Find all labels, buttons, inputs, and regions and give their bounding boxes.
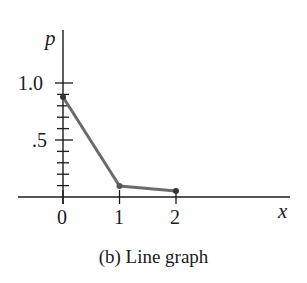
data-point-2 [173,188,179,194]
data-point-1 [117,183,123,189]
data-point-0 [60,94,66,100]
chart-canvas: p x 1.0 .5 0 1 2 [0,0,307,283]
data-line [63,97,176,191]
figure-caption: (b) Line graph [0,246,307,268]
y-tick-label-1: 1.0 [18,72,43,94]
y-axis-label: p [43,26,56,50]
x-tick-label-2: 2 [170,206,180,228]
x-tick-label-0: 0 [57,206,67,228]
y-tick-label-05: .5 [32,129,47,151]
line-graph-figure: p x 1.0 .5 0 1 2 (b) Line graph [0,0,307,283]
x-tick-label-1: 1 [114,206,124,228]
x-axis-label: x [277,199,288,223]
